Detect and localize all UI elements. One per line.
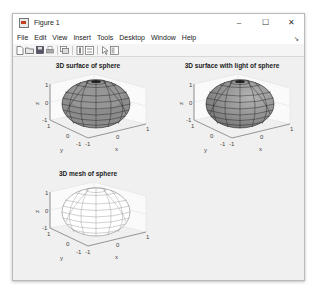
link-plot-icon: [60, 46, 69, 54]
y-tick: 0: [66, 133, 70, 139]
insert-colorbar-icon: [76, 46, 84, 55]
insert-colorbar-button[interactable]: [75, 46, 84, 55]
y-tick: -1: [76, 141, 82, 147]
minimize-button[interactable]: –: [226, 14, 252, 31]
x-tick: 1: [146, 234, 150, 240]
toolbar-separator: [57, 46, 58, 55]
save-button[interactable]: [35, 46, 44, 55]
menu-insert[interactable]: Insert: [73, 34, 91, 41]
menu-edit[interactable]: Edit: [34, 34, 46, 41]
property-inspector-icon: [110, 46, 119, 55]
matlab-figure-icon: [19, 18, 29, 28]
y-tick: 0: [66, 241, 70, 247]
toolbar-separator: [72, 46, 73, 55]
menu-view[interactable]: View: [52, 34, 67, 41]
link-plot-button[interactable]: [60, 46, 69, 55]
z-tick: 1: [45, 82, 49, 88]
y-label: y: [60, 255, 63, 261]
figure-toolbar: [13, 44, 304, 57]
print-button[interactable]: [45, 46, 54, 55]
x-tick: 0: [260, 134, 264, 140]
y-tick: -1: [220, 141, 226, 147]
y-tick: 0: [210, 133, 214, 139]
menu-file[interactable]: File: [17, 34, 28, 41]
x-tick: -1: [85, 141, 91, 147]
open-file-icon: [25, 46, 34, 54]
window-title: Figure 1: [34, 19, 60, 26]
sphere-mesh: [62, 188, 130, 237]
y-label: y: [60, 147, 63, 153]
maximize-icon: ☐: [262, 18, 269, 27]
z-tick: 0: [189, 100, 193, 106]
menu-tools[interactable]: Tools: [97, 34, 113, 41]
z-label: z: [34, 102, 40, 105]
axes-3d: 1 0 -1 z 1 0 -1 y -1 0 1 x: [18, 170, 158, 280]
insert-legend-icon: [85, 46, 94, 55]
z-tick: 1: [45, 190, 49, 196]
x-label: x: [115, 254, 118, 260]
menu-help[interactable]: Help: [182, 34, 196, 41]
new-figure-button[interactable]: [15, 46, 24, 55]
print-icon: [46, 46, 54, 54]
edit-plot-button[interactable]: [100, 46, 109, 55]
z-label: z: [178, 102, 184, 105]
menu-bar: File Edit View Insert Tools Desktop Wind…: [13, 31, 304, 44]
x-tick: 0: [116, 242, 120, 248]
open-file-button[interactable]: [25, 46, 34, 55]
sphere-lit-surface: [206, 80, 274, 129]
menu-desktop[interactable]: Desktop: [119, 34, 145, 41]
edit-plot-arrow-icon: [101, 46, 109, 55]
x-tick: -1: [85, 249, 91, 255]
x-tick: 0: [116, 134, 120, 140]
sphere-surface: [62, 80, 130, 129]
z-tick: 1: [189, 82, 193, 88]
close-button[interactable]: ✕: [278, 14, 304, 31]
x-tick: 1: [146, 126, 150, 132]
figure-canvas: 3D surface of sphere: [14, 57, 303, 279]
x-tick: 1: [290, 126, 294, 132]
title-bar[interactable]: Figure 1 – ☐ ✕: [13, 14, 304, 31]
subplot-surface[interactable]: 3D surface of sphere: [18, 62, 158, 172]
y-label: y: [204, 147, 207, 153]
z-label: z: [34, 210, 40, 213]
dock-arrow-icon[interactable]: ➘: [294, 35, 299, 42]
x-label: x: [259, 146, 262, 152]
subplot-lit-surface[interactable]: 3D surface with light of sphere: [162, 62, 302, 172]
property-inspector-button[interactable]: [110, 46, 119, 55]
x-label: x: [115, 146, 118, 152]
y-tick: 1: [191, 123, 195, 129]
new-figure-icon: [16, 46, 24, 55]
minimize-icon: –: [237, 18, 241, 27]
close-icon: ✕: [288, 18, 295, 27]
save-icon: [36, 46, 44, 54]
subplot-mesh[interactable]: 3D mesh of sphere: [18, 170, 158, 280]
x-tick: -1: [229, 141, 235, 147]
axes-3d: 1 0 -1 z 1 0 -1 y -1 0 1 x: [18, 62, 158, 172]
z-tick: 0: [45, 100, 49, 106]
insert-legend-button[interactable]: [85, 46, 94, 55]
y-tick: -1: [76, 249, 82, 255]
y-tick: 1: [47, 123, 51, 129]
maximize-button[interactable]: ☐: [252, 14, 278, 31]
axes-3d: 1 0 -1 z 1 0 -1 y -1 0 1 x: [162, 62, 302, 172]
z-tick: 0: [45, 208, 49, 214]
y-tick: 1: [47, 231, 51, 237]
figure-window: Figure 1 – ☐ ✕ File Edit View Insert Too…: [12, 13, 305, 281]
menu-window[interactable]: Window: [151, 34, 176, 41]
toolbar-separator: [97, 46, 98, 55]
